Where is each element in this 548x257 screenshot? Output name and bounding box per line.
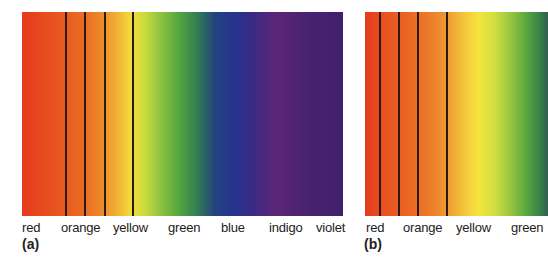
label-green: green — [168, 220, 200, 235]
spectrum-band-a — [22, 12, 343, 216]
divider-line — [398, 12, 400, 216]
panel-tag-a: (a) — [22, 236, 39, 252]
divider-line — [446, 12, 448, 216]
divider-line — [379, 12, 381, 216]
label-red: red — [22, 220, 40, 235]
label-orange: orange — [403, 220, 442, 235]
divider-line — [104, 12, 106, 216]
label-violet: violet — [316, 220, 345, 235]
divider-line — [132, 12, 134, 216]
label-green: green — [511, 220, 543, 235]
spectrum-band-b — [365, 12, 548, 216]
divider-line — [417, 12, 419, 216]
divider-line — [65, 12, 67, 216]
label-blue: blue — [221, 220, 245, 235]
label-yellow: yellow — [456, 220, 491, 235]
panel-tag-b: (b) — [364, 236, 382, 252]
label-orange: orange — [61, 220, 100, 235]
label-yellow: yellow — [113, 220, 148, 235]
label-red: red — [366, 220, 384, 235]
divider-line — [84, 12, 86, 216]
label-indigo: indigo — [269, 220, 303, 235]
